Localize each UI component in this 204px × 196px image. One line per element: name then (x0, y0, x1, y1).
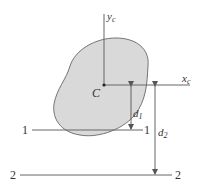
d1-label: d1 (133, 107, 143, 121)
axis-2-left-label: 2 (10, 168, 16, 182)
yc-label: yc (106, 10, 116, 24)
area-shape (54, 38, 148, 136)
axis-1-left-label: 1 (22, 123, 28, 137)
centroid-label: C (92, 86, 101, 100)
parallel-axis-diagram: yc xc C d1 d2 1 1 2 2 (0, 0, 204, 196)
d2-label: d2 (158, 126, 168, 140)
axis-2-right-label: 2 (175, 168, 181, 182)
axis-1-right-label: 1 (144, 123, 150, 137)
centroid-point (102, 83, 105, 86)
xc-label: xc (181, 72, 191, 86)
